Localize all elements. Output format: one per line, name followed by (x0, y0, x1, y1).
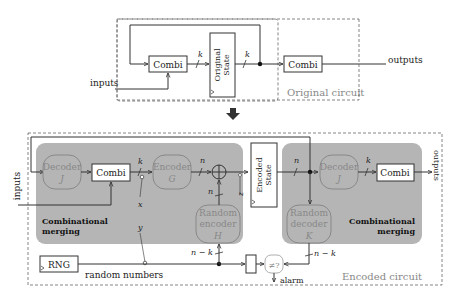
encoded-circuit: Decoder J Combi inputs k x y Encoder G n (12, 133, 442, 285)
nk-label: n − k (191, 248, 213, 257)
random-numbers-label: random numbers (85, 270, 164, 280)
z-label: z (237, 192, 245, 197)
inputs-label: inputs (90, 78, 119, 88)
k-label: k (138, 157, 143, 166)
delay-register (246, 255, 256, 273)
k-label: k (245, 50, 250, 59)
x-label: x (138, 200, 143, 209)
state-label-1: Original (213, 48, 222, 82)
down-arrow-icon (226, 108, 240, 120)
diagram-canvas: Combi inputs k Original State k Combi ou… (0, 0, 453, 299)
rand-enc-label: Random (199, 208, 237, 218)
rand-enc-label: H (213, 231, 222, 241)
encoded-circuit-title: Encoded circuit (342, 271, 422, 282)
nk-label: n − k (314, 249, 336, 258)
probe-x (140, 175, 144, 179)
n-label: n (208, 187, 213, 196)
state-label-1: Encoded (255, 157, 264, 192)
junction-dot (258, 62, 262, 66)
outputs-label: outputs (432, 150, 441, 181)
alarm-label: alarm (280, 276, 304, 285)
state-label-2: State (264, 164, 273, 186)
wire (284, 243, 309, 264)
k-label: k (198, 50, 203, 59)
n-label: n (294, 156, 299, 165)
outputs-label: outputs (388, 55, 423, 65)
merge-label: merging (377, 226, 415, 236)
merge-label: Combinational (42, 216, 108, 226)
inputs-wire (115, 73, 168, 89)
rand-dec-label: K (305, 231, 314, 241)
n-label: n (200, 156, 205, 165)
k-label: k (366, 156, 371, 165)
rand-dec-label: decoder (291, 219, 329, 229)
decoder-label: Decoder (320, 162, 359, 172)
original-circuit-title: Original circuit (287, 87, 364, 98)
encoder-label: G (168, 174, 175, 184)
encoder-label: Encoder (153, 162, 192, 172)
original-circuit: Combi inputs k Original State k Combi ou… (90, 19, 423, 101)
rand-enc-label: encoder (200, 219, 238, 229)
combi-label: Combi (288, 60, 318, 70)
decoder-label: Decoder (43, 162, 82, 172)
probe-z (239, 174, 242, 177)
state-label-2: State (222, 54, 231, 76)
merge-label: merging (42, 226, 80, 236)
combi-label: Combi (380, 168, 410, 178)
combi-label: Combi (153, 60, 183, 70)
inputs-label: inputs (12, 171, 22, 200)
combi-label: Combi (96, 168, 126, 178)
comparator-label: ≠? (269, 261, 280, 270)
merge-label: Combinational (349, 216, 415, 226)
y-label: y (137, 223, 143, 232)
rand-dec-label: Random (290, 208, 328, 218)
rng-label: RNG (48, 260, 70, 270)
